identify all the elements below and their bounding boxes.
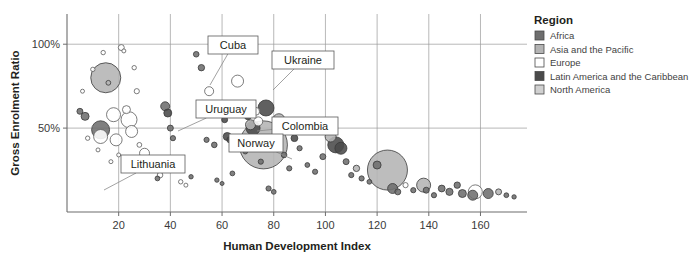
bubble-point bbox=[230, 171, 235, 176]
annotation-callouts: CubaUkraineUruguayColombiaNorwayLithuani… bbox=[121, 36, 338, 173]
bubble-point bbox=[367, 179, 372, 184]
annotation-leader-line bbox=[273, 69, 294, 90]
bubble-point bbox=[106, 80, 111, 85]
bubble-point bbox=[403, 183, 408, 188]
x-tick-label: 160 bbox=[471, 219, 489, 231]
bubble-point bbox=[110, 134, 122, 146]
bubble-chart: 20406080100120140160 50%100% CubaUkraine… bbox=[0, 0, 694, 265]
y-tick-labels: 50%100% bbox=[32, 38, 60, 134]
bubble-point bbox=[395, 189, 401, 195]
bubble-point bbox=[468, 190, 478, 200]
legend-label-africa: Africa bbox=[550, 30, 575, 41]
bubble-point bbox=[438, 185, 445, 192]
bubble-point bbox=[198, 64, 204, 70]
bubble-point bbox=[107, 108, 121, 122]
bubble-point bbox=[271, 189, 276, 194]
bubble-point bbox=[91, 63, 121, 93]
bubble-point bbox=[189, 175, 193, 179]
bubble-point bbox=[266, 186, 271, 191]
bubble-point bbox=[458, 190, 466, 198]
bubble-point bbox=[291, 135, 298, 142]
bubble-point bbox=[287, 166, 292, 171]
x-tick-label: 120 bbox=[368, 219, 386, 231]
legend-label-europe: Europe bbox=[550, 57, 581, 68]
bubble-point bbox=[367, 150, 407, 190]
y-tick-label: 100% bbox=[32, 38, 60, 50]
bubble-point bbox=[184, 183, 188, 187]
legend-swatch-latin-america-and-the-caribbean bbox=[535, 72, 544, 81]
y-axis-title: Gross Enrolment Ratio bbox=[9, 50, 21, 175]
bubble-point bbox=[431, 193, 436, 198]
bubble-point bbox=[117, 153, 121, 157]
y-tick-label: 50% bbox=[38, 122, 60, 134]
legend-label-north-america: North America bbox=[550, 84, 611, 95]
x-axis-title: Human Development Index bbox=[223, 240, 371, 252]
bubble-point bbox=[101, 50, 105, 54]
annotation-label: Uruguay bbox=[205, 103, 247, 115]
chart-canvas: 20406080100120140160 50%100% CubaUkraine… bbox=[0, 0, 694, 265]
legend-label-latin-america-and-the-caribbean: Latin America and the Caribbean bbox=[550, 71, 688, 82]
bubble-point bbox=[109, 160, 113, 164]
bubble-point bbox=[343, 159, 349, 165]
bubble-point bbox=[258, 100, 274, 116]
bubble-point bbox=[297, 146, 302, 151]
bubble-point bbox=[85, 136, 89, 140]
annotation-leader-line bbox=[178, 118, 206, 131]
bubble-point bbox=[94, 129, 108, 143]
bubble-point bbox=[137, 142, 142, 147]
legend-items: AfricaAsia and the PacificEuropeLatin Am… bbox=[535, 30, 688, 95]
bubble-point bbox=[258, 159, 263, 164]
x-tick-label: 60 bbox=[216, 219, 228, 231]
bubble-point bbox=[193, 51, 199, 57]
bubble-point bbox=[220, 181, 224, 185]
legend: Region AfricaAsia and the PacificEuropeL… bbox=[534, 14, 688, 95]
annotation-label: Cuba bbox=[220, 39, 247, 51]
bubble-point bbox=[353, 165, 359, 171]
annotation-label: Norway bbox=[237, 137, 275, 149]
legend-title: Region bbox=[534, 14, 573, 26]
bubble-point bbox=[411, 188, 416, 193]
bubble-point bbox=[167, 125, 173, 131]
bubble-point bbox=[335, 142, 347, 154]
x-tick-label: 80 bbox=[268, 219, 280, 231]
bubble-point bbox=[212, 142, 218, 148]
bubble-point bbox=[204, 137, 209, 142]
bubble-point bbox=[164, 109, 172, 117]
x-tick-label: 40 bbox=[164, 219, 176, 231]
bubble-point bbox=[373, 161, 381, 169]
bubble-point bbox=[81, 89, 85, 93]
bubble-point bbox=[91, 67, 95, 71]
legend-swatch-asia-and-the-pacific bbox=[535, 45, 544, 54]
bubble-point bbox=[96, 148, 100, 152]
bubble-point bbox=[423, 187, 429, 193]
bubble-point bbox=[179, 180, 183, 184]
bubble-point bbox=[359, 176, 364, 181]
bubble-point bbox=[170, 136, 175, 141]
bubble-point bbox=[320, 154, 326, 160]
legend-swatch-north-america bbox=[535, 85, 544, 94]
bubble-point bbox=[121, 112, 137, 128]
bubble-point bbox=[504, 193, 509, 198]
annotation-leader-line bbox=[104, 173, 136, 190]
annotation-label: Ukraine bbox=[284, 54, 322, 66]
annotation-label: Lithuania bbox=[131, 158, 177, 170]
legend-swatch-europe bbox=[535, 58, 544, 67]
bubble-point bbox=[132, 65, 136, 69]
bubble-point bbox=[215, 178, 219, 182]
bubble-point bbox=[446, 188, 453, 195]
legend-label-asia-and-the-pacific: Asia and the Pacific bbox=[550, 44, 634, 55]
legend-swatch-africa bbox=[535, 31, 544, 40]
bubble-point bbox=[126, 125, 138, 137]
bubble-point bbox=[155, 176, 160, 181]
bubble-point bbox=[305, 163, 310, 168]
bubble-point bbox=[122, 106, 130, 114]
bubble-point bbox=[77, 108, 83, 114]
x-tick-labels: 20406080100120140160 bbox=[113, 219, 490, 231]
annotation-leader-line bbox=[210, 54, 228, 85]
bubble-point bbox=[122, 49, 126, 53]
bubble-point bbox=[454, 182, 460, 188]
x-tick-label: 20 bbox=[113, 219, 125, 231]
bubble-point bbox=[232, 75, 244, 87]
bubble-point bbox=[205, 87, 214, 96]
bubble-point bbox=[134, 89, 139, 94]
